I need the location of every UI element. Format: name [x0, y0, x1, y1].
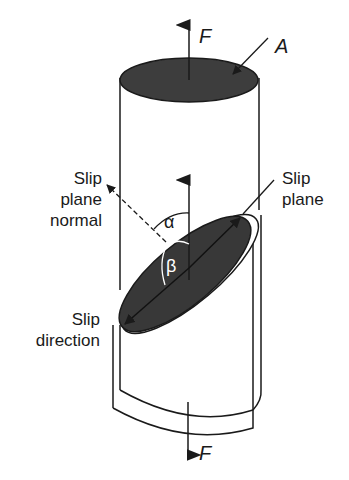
alpha-label: α: [164, 212, 174, 233]
beta-label: β: [166, 256, 176, 277]
force-label-bottom: F: [199, 443, 211, 464]
label-line: Slip: [10, 309, 100, 330]
label-line: plane: [48, 189, 102, 210]
label-line: Slip: [48, 168, 102, 189]
label-line: Slip: [282, 168, 324, 189]
label-line: plane: [282, 189, 324, 210]
slip-direction-label: Slip direction: [10, 309, 100, 351]
area-label: A: [275, 36, 288, 57]
slip-plane: [103, 198, 267, 349]
area-leader: [233, 38, 268, 74]
slip-plane-normal-arrow: [107, 185, 166, 242]
force-label-top: F: [199, 26, 211, 47]
label-line: direction: [10, 330, 100, 351]
slip-plane-label: Slip plane: [282, 168, 324, 210]
label-line: normal: [48, 210, 102, 231]
slip-plane-normal-label: Slip plane normal: [48, 168, 102, 231]
slip-diagram: [0, 0, 349, 480]
